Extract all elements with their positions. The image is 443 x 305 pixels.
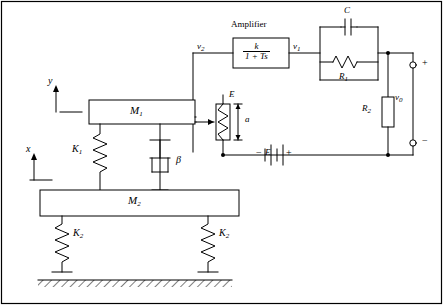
ground-hatch [38,280,232,287]
displacement-y-label: y [48,76,52,86]
amplifier-caption: Amplifier [231,20,267,29]
spring-k1-label: K1 [72,144,82,156]
mass-m2-label: M2 [128,195,141,208]
capacitor-label: C [344,6,350,15]
schematic-drawing [0,0,443,305]
amplifier-transfer-function: k 1 + Ts [243,42,270,62]
mass-m1-label: M1 [130,105,143,118]
amplifier-denominator: 1 + Ts [243,52,270,61]
battery-label: E [265,148,271,157]
schematic-figure: Amplifier k 1 + Ts v2 v1 v0 C R1 R2 + − … [0,0,443,305]
resistor-r1-label: R1 [339,72,348,83]
potentiometer-supply-label: E [229,90,235,99]
spring-k2-right-label: K2 [219,228,229,240]
output-terminal-minus: − [422,136,428,146]
output-terminal-plus: + [422,58,428,68]
displacement-x-label: x [26,144,30,154]
battery-plus-sign: + [286,148,292,158]
signal-v2-label: v2 [197,42,205,53]
damper-beta-label: β [176,155,181,165]
signal-v1-label: v1 [293,42,301,53]
resistor-r2-label: R2 [362,104,371,115]
battery-minus-sign: − [256,148,262,158]
signal-v0-label: v0 [395,93,403,104]
spring-k2-left-label: K2 [73,228,83,240]
potentiometer-span-label: a [245,115,250,124]
